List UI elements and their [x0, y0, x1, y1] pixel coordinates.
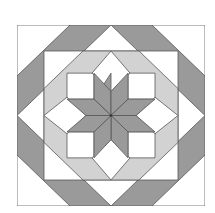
- quilt-block: [17, 25, 205, 206]
- star-center: [110, 114, 112, 116]
- white-square-tr: [128, 73, 155, 99]
- white-square-tl: [67, 73, 94, 99]
- diagram-title: Lemoyne star quilt block: [0, 0, 11, 1]
- white-square-br: [128, 132, 155, 158]
- white-square-bl: [67, 132, 94, 158]
